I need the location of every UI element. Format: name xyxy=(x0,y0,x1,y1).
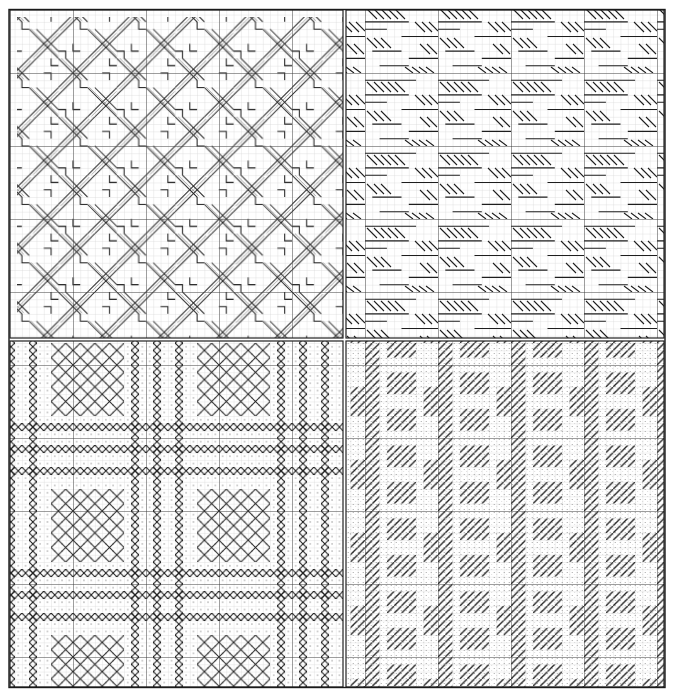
panel-top-left xyxy=(10,10,343,338)
stitch-chart xyxy=(0,0,675,695)
panel-top-right xyxy=(346,10,664,338)
panel-bottom-right xyxy=(346,341,664,687)
panel-bottom-left xyxy=(10,341,343,687)
